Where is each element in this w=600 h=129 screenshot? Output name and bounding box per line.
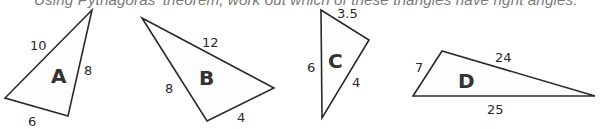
triangle-a-shape: [5, 10, 92, 116]
triangle-d-side-bottom: 25: [487, 102, 504, 117]
triangle-c-side-top: 3.5: [337, 6, 358, 21]
triangle-c-side-left: 6: [307, 60, 315, 75]
triangle-b-label: B: [199, 66, 214, 90]
triangles-figure: 10 8 6 A 12 8 4 B 3.5 6 4 C 7 24 25 D: [0, 0, 600, 129]
triangle-d-side-top: 24: [495, 50, 512, 65]
triangle-b: 12 8 4 B: [142, 18, 274, 125]
triangle-c-side-right: 4: [352, 75, 360, 90]
triangle-a-side-right: 8: [84, 63, 92, 78]
triangle-a: 10 8 6 A: [5, 10, 92, 129]
triangle-a-side-hypotenuse: 10: [30, 38, 47, 53]
triangle-d-side-left: 7: [415, 60, 423, 75]
triangle-d: 7 24 25 D: [413, 50, 595, 117]
triangle-c: 3.5 6 4 C: [307, 6, 369, 118]
triangle-b-side-left: 8: [165, 81, 173, 96]
triangle-a-label: A: [51, 64, 67, 88]
triangle-c-label: C: [328, 49, 343, 73]
triangle-d-label: D: [458, 69, 475, 93]
triangle-b-side-top: 12: [202, 35, 219, 50]
triangle-a-side-bottom: 6: [28, 114, 36, 129]
triangle-b-side-bottom: 4: [237, 110, 245, 125]
